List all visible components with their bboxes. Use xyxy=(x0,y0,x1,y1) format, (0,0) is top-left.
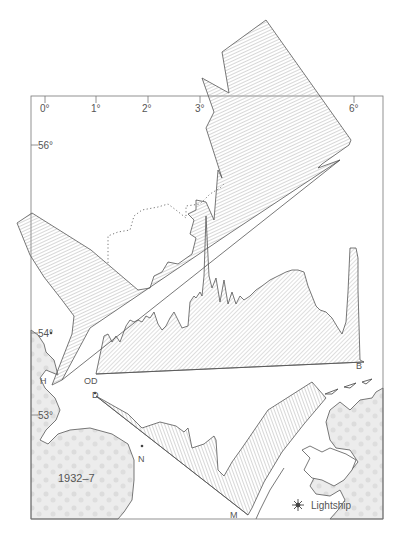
latitude-tick-label: 56° xyxy=(38,140,53,151)
station-label: OD xyxy=(84,376,98,386)
station-label: B xyxy=(356,361,362,371)
longitude-tick-label: 3° xyxy=(195,103,205,114)
latitude-tick-label: 54° xyxy=(38,328,53,339)
frisian-islands xyxy=(325,379,372,394)
station-label: M xyxy=(230,510,238,520)
latitude-tick-label: 53° xyxy=(38,410,53,421)
longitude-tick-label: 6° xyxy=(349,103,359,114)
station-label: H xyxy=(40,376,47,386)
station-label: D xyxy=(92,390,99,400)
longitude-tick-label: 1° xyxy=(91,103,101,114)
lightship-icon xyxy=(141,445,144,448)
longitude-tick-label: 2° xyxy=(142,103,152,114)
longitude-tick-label: 0° xyxy=(40,103,50,114)
legend xyxy=(292,499,304,511)
period-label: 1932–7 xyxy=(58,472,95,484)
station-label: N xyxy=(138,454,145,464)
legend-label: Lightship xyxy=(311,500,351,511)
figure-caption-fragment xyxy=(8,527,398,538)
transect-map-figure: 0°1°2°3°6°56°54°53°HODDNMB1932–7Lightshi… xyxy=(0,0,402,538)
lightship-icon xyxy=(292,499,304,511)
